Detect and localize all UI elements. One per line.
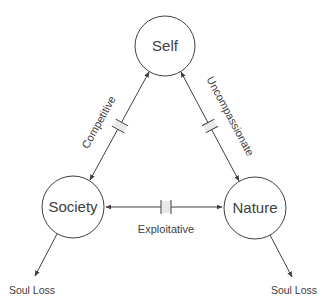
edge-self-society: Competitive [79, 72, 149, 180]
output-nature-soul-loss: Soul Loss [270, 235, 317, 296]
node-society: Society [42, 176, 104, 238]
node-self: Self [135, 16, 195, 76]
soul-loss-label: Soul Loss [271, 284, 317, 296]
node-label-self: Self [152, 37, 179, 54]
edge-break-symbol [202, 119, 218, 133]
node-nature: Nature [224, 177, 286, 239]
edge-label-competitive: Competitive [79, 94, 118, 151]
edge-society-nature: Exploitative [106, 200, 222, 235]
node-label-nature: Nature [232, 199, 277, 216]
edge-label-exploitative: Exploitative [138, 223, 194, 235]
edge-label-uncompassionate: Uncompassionate [205, 74, 257, 157]
output-society-soul-loss: Soul Loss [9, 234, 57, 296]
node-label-society: Society [48, 198, 98, 215]
soul-loss-label: Soul Loss [9, 284, 55, 296]
edge-self-nature: Uncompassionate [181, 72, 257, 181]
triangle-diagram: Competitive Uncompassionate Exploitative… [0, 0, 328, 304]
edge-break-symbol [161, 200, 171, 214]
edge-break-symbol [112, 119, 128, 133]
